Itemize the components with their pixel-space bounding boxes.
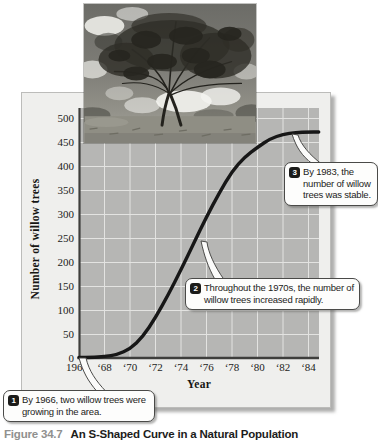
x-tick-label: ‘84 (301, 361, 316, 373)
tree-illustration (84, 4, 256, 143)
y-tick-label: 150 (58, 280, 75, 292)
x-tick-label: ‘68 (97, 361, 112, 373)
figure-34-7: 0501001502002503003504004505001966‘68‘70… (0, 0, 378, 446)
x-tick-label: 1966 (66, 361, 89, 373)
x-tick-label: ‘80 (250, 361, 265, 373)
y-tick-label: 250 (58, 232, 75, 244)
grass-field (85, 116, 256, 143)
callout-2: 2 Throughout the 1970s, the number of wi… (185, 278, 360, 310)
callout-2-number-badge: 2 (190, 283, 201, 294)
y-tick-label: 500 (58, 112, 75, 124)
x-tick-label: ‘76 (199, 361, 214, 373)
figure-caption-text: An S-Shaped Curve in a Natural Populatio… (71, 428, 299, 440)
y-tick-label: 300 (58, 208, 75, 220)
y-tick-label: 450 (58, 136, 75, 148)
willow-tree-photo (84, 4, 256, 143)
y-tick-label: 350 (58, 184, 75, 196)
y-tick-label: 400 (58, 160, 75, 172)
callout-1-text: By 1966, two willow trees were growing i… (22, 394, 149, 417)
x-tick-label: ‘82 (276, 361, 291, 373)
x-tick-label: ‘74 (174, 361, 189, 373)
callout-1-number-badge: 1 (8, 395, 19, 406)
y-tick-label: 100 (58, 304, 75, 316)
x-tick-label: ‘72 (148, 361, 163, 373)
callout-3: 3 By 1983, the number of willow trees wa… (284, 162, 378, 206)
x-tick-label: ‘78 (225, 361, 240, 373)
callout-1: 1 By 1966, two willow trees were growing… (3, 390, 155, 422)
callout-2-text: Throughout the 1970s, the number of will… (204, 282, 354, 305)
figure-caption: Figure 34.7 An S-Shaped Curve in a Natur… (4, 428, 298, 440)
callout-3-text: By 1983, the number of willow trees was … (303, 166, 372, 201)
y-tick-label: 200 (58, 256, 75, 268)
y-axis-title: Number of willow trees (29, 178, 41, 299)
callout-3-number-badge: 3 (289, 167, 300, 178)
x-tick-label: ‘70 (123, 361, 138, 373)
figure-caption-label: Figure 34.7 (4, 428, 63, 440)
y-tick-label: 50 (63, 328, 75, 340)
x-axis-title: Year (187, 378, 211, 390)
